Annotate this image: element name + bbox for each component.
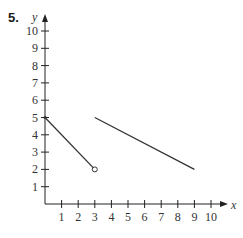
y-axis-label: y [31, 10, 38, 24]
x-tick-label: 6 [142, 210, 148, 224]
x-tick-label: 3 [92, 210, 98, 224]
y-tick-label: 8 [32, 59, 38, 73]
x-tick-label: 9 [191, 210, 197, 224]
open-endpoint-icon [92, 167, 97, 172]
y-tick-label: 10 [26, 24, 38, 38]
y-axis-arrow-icon [42, 14, 48, 22]
y-tick-label: 7 [32, 76, 38, 90]
x-axis-arrow-icon [220, 201, 228, 207]
x-tick-label: 4 [108, 210, 114, 224]
closed-endpoint-icon [44, 116, 47, 119]
x-tick-label: 10 [205, 210, 217, 224]
segment-1 [45, 118, 95, 170]
x-tick-label: 7 [158, 210, 164, 224]
x-tick-label: 1 [59, 210, 65, 224]
y-tick-label: 4 [32, 128, 38, 142]
y-tick-label: 9 [32, 41, 38, 55]
piecewise-function-graph: 1234567891012345678910xy [0, 0, 243, 238]
y-tick-label: 3 [32, 145, 38, 159]
x-tick-label: 8 [175, 210, 181, 224]
x-tick-label: 5 [125, 210, 131, 224]
x-axis-label: x [230, 198, 237, 212]
y-tick-label: 1 [32, 180, 38, 194]
y-tick-label: 5 [32, 111, 38, 125]
y-tick-label: 6 [32, 93, 38, 107]
x-tick-label: 2 [75, 210, 81, 224]
segment-2 [95, 118, 195, 170]
y-tick-label: 2 [32, 162, 38, 176]
